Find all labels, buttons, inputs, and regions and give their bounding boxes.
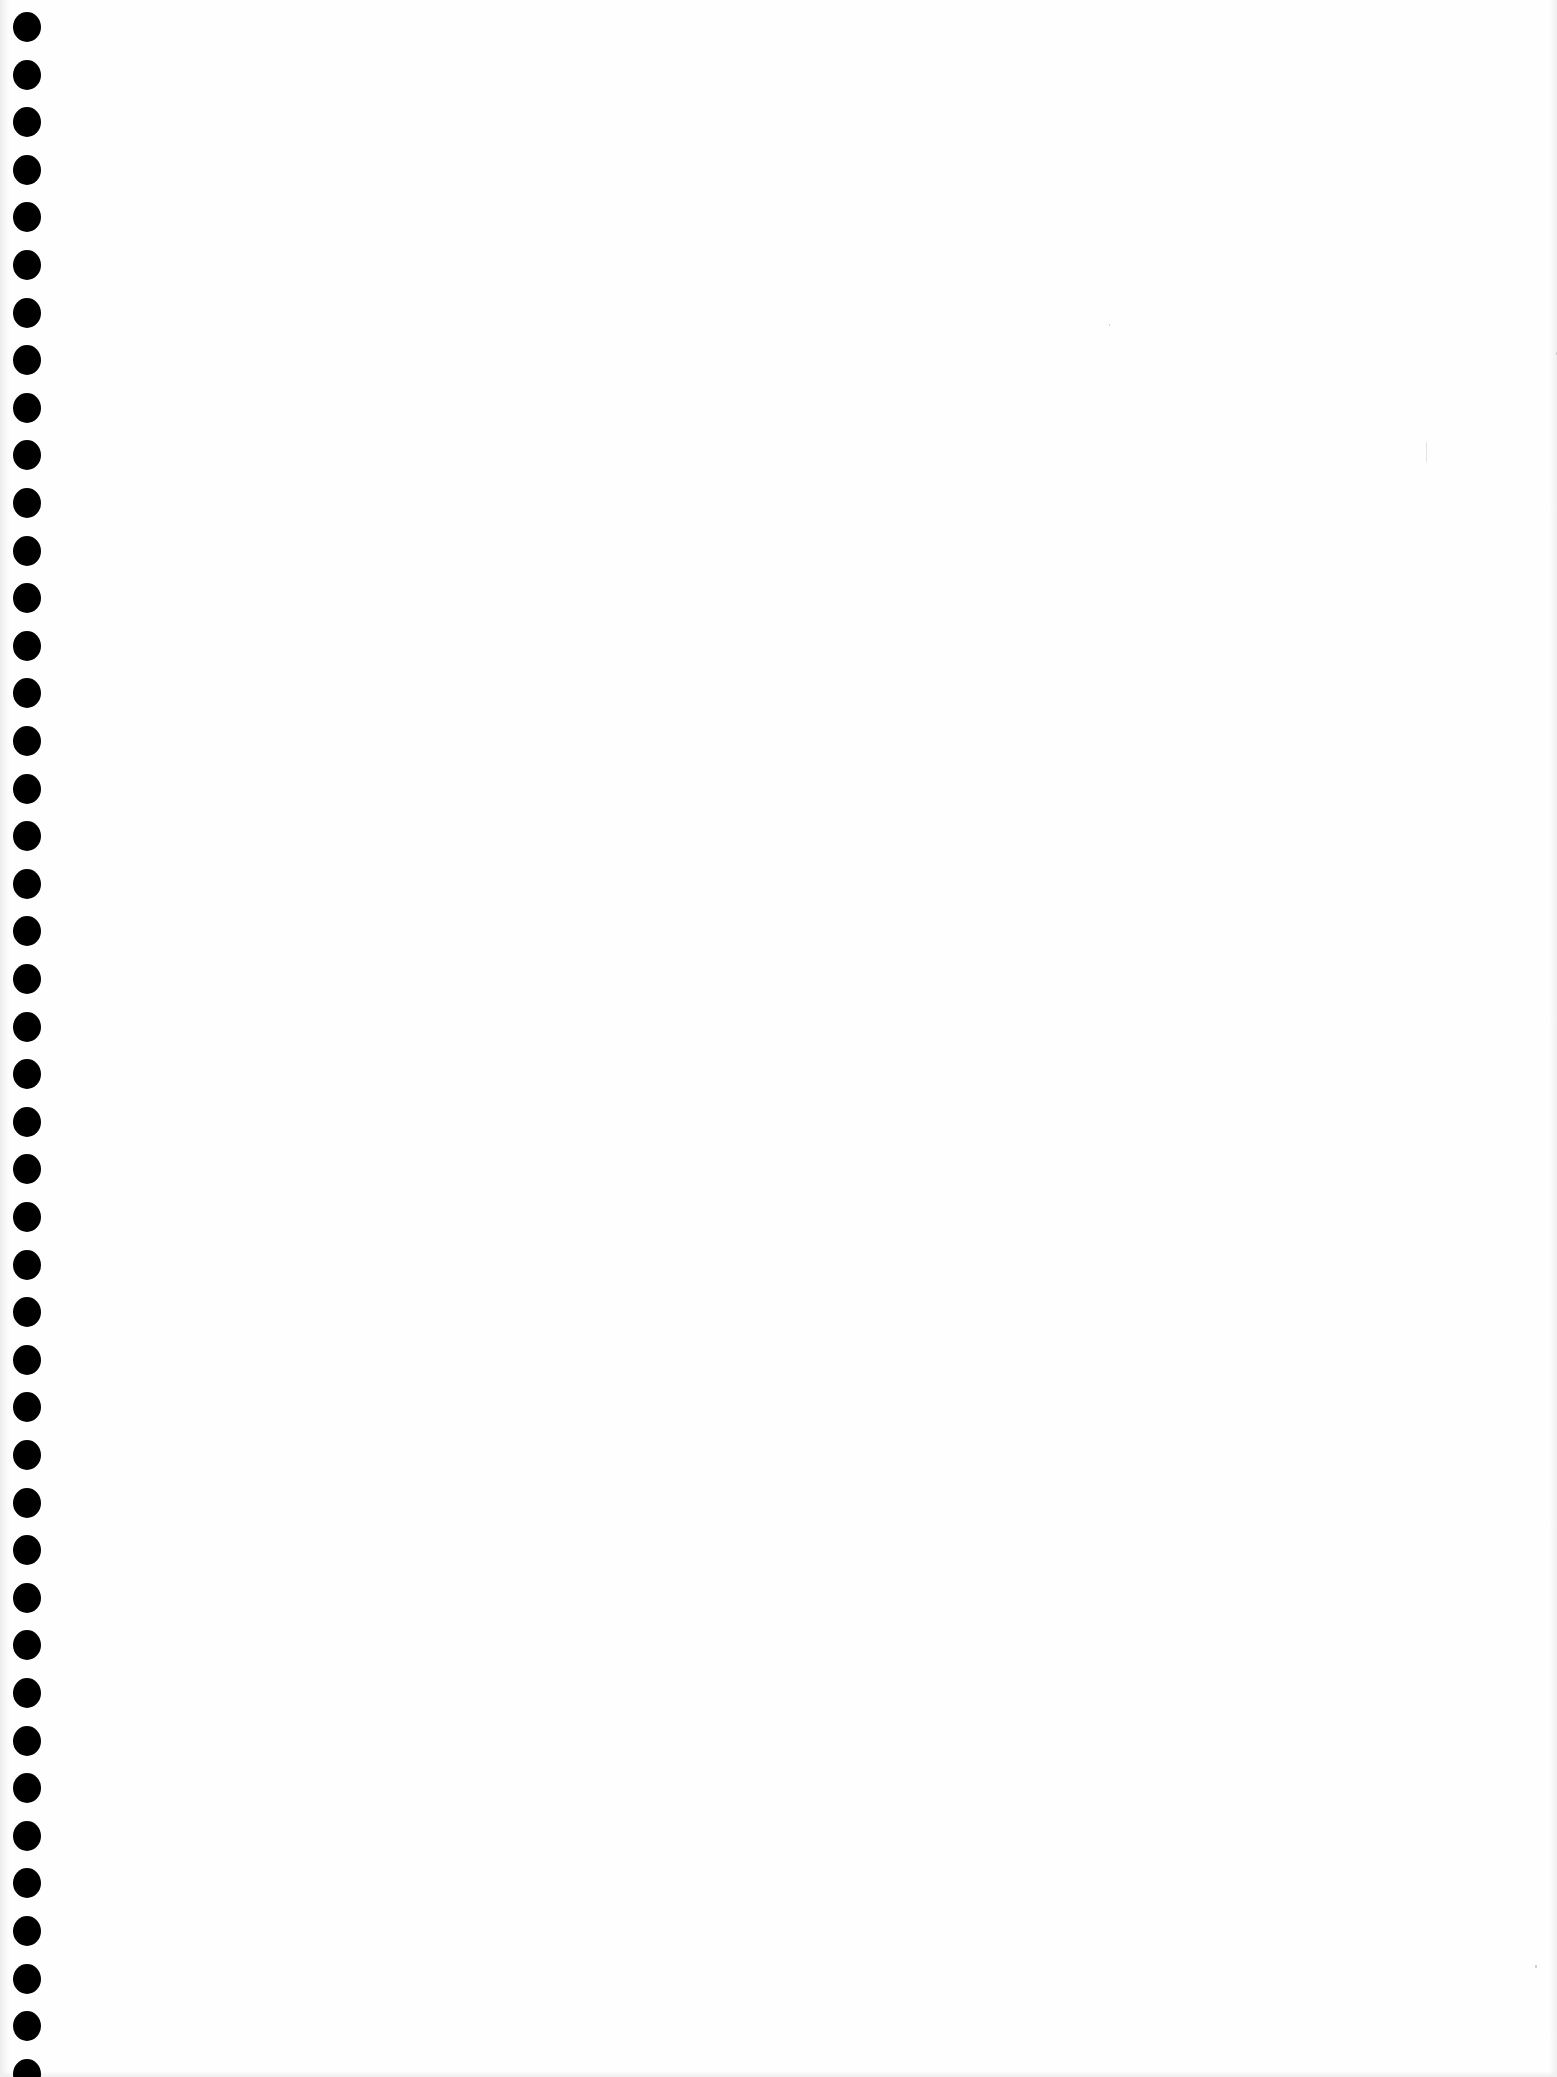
binding-hole — [13, 107, 41, 137]
binding-hole — [13, 2059, 41, 2077]
binding-hole — [13, 678, 41, 708]
binding-hole — [13, 916, 41, 946]
binding-hole — [13, 1392, 41, 1422]
binding-hole — [13, 1583, 41, 1613]
scan-speck — [1535, 1965, 1537, 1968]
binding-hole — [13, 1345, 41, 1375]
binding-hole — [13, 1440, 41, 1470]
binding-hole — [13, 1535, 41, 1565]
binding-hole — [13, 821, 41, 851]
binding-hole — [13, 440, 41, 470]
binding-hole — [13, 60, 41, 90]
binding-hole — [13, 1821, 41, 1851]
binding-hole — [13, 1488, 41, 1518]
binding-hole — [13, 1964, 41, 1994]
scan-speck — [1109, 324, 1110, 326]
binding-hole — [13, 1773, 41, 1803]
binding-hole — [13, 155, 41, 185]
binding-hole — [13, 1107, 41, 1137]
scan-speck — [1426, 442, 1427, 462]
binding-hole — [13, 1678, 41, 1708]
binding-hole — [13, 774, 41, 804]
binding-hole — [13, 964, 41, 994]
binding-hole — [13, 1202, 41, 1232]
binding-hole — [13, 298, 41, 328]
binding-hole — [13, 488, 41, 518]
binding-hole — [13, 1726, 41, 1756]
binding-hole — [13, 202, 41, 232]
binding-hole — [13, 1630, 41, 1660]
blank-writing-area — [60, 0, 1557, 2077]
binding-hole — [13, 345, 41, 375]
binding-hole — [13, 393, 41, 423]
binding-hole — [13, 631, 41, 661]
binding-hole — [13, 536, 41, 566]
binding-hole — [13, 1250, 41, 1280]
binding-hole — [13, 1916, 41, 1946]
spiral-binding-holes — [0, 0, 60, 2077]
binding-hole — [13, 1059, 41, 1089]
binding-hole — [13, 583, 41, 613]
binding-hole — [13, 1154, 41, 1184]
notebook-page — [0, 0, 1557, 2077]
binding-hole — [13, 2011, 41, 2041]
binding-hole — [13, 726, 41, 756]
binding-hole — [13, 869, 41, 899]
binding-hole — [13, 250, 41, 280]
binding-hole — [13, 1012, 41, 1042]
binding-hole — [13, 1868, 41, 1898]
binding-hole — [13, 1297, 41, 1327]
binding-hole — [13, 12, 41, 42]
